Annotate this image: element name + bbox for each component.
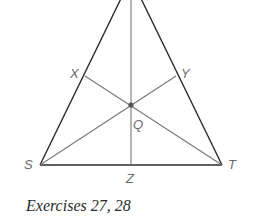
triangle-diagram: [0, 0, 254, 221]
figure-caption: Exercises 27, 28: [26, 198, 131, 214]
label-q: Q: [133, 118, 143, 131]
centroid-point-q: [128, 102, 133, 107]
label-s: S: [24, 158, 33, 171]
label-t: T: [228, 158, 236, 171]
label-x: X: [70, 67, 79, 80]
median-T-X: [85, 76, 222, 165]
side-apex-T: [131, 0, 222, 165]
median-S-Y: [40, 76, 176, 165]
label-y: Y: [181, 67, 190, 80]
label-z: Z: [126, 172, 134, 185]
side-apex-S: [40, 0, 131, 165]
